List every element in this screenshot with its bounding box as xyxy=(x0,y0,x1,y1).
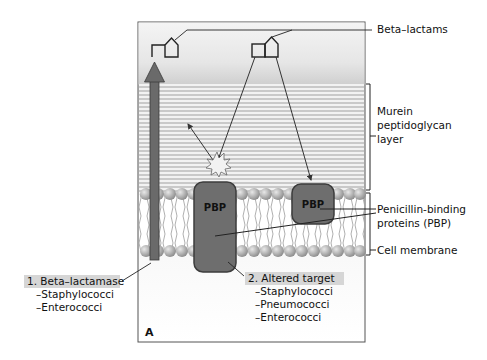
label-beta-lactams: Beta–lactams xyxy=(377,23,448,35)
panel-letter: A xyxy=(145,326,154,339)
label-murein-2: peptidoglycan xyxy=(377,119,452,131)
label-murein-1: Murein xyxy=(377,105,413,117)
pbp-label: PBP xyxy=(204,202,226,213)
mechanism-1-organism: –Staphylococci xyxy=(36,288,114,300)
mechanism-2-organism: –Staphylococci xyxy=(255,285,333,297)
pbp-label: PBP xyxy=(302,199,324,210)
peptidoglycan-layer xyxy=(139,84,364,192)
mechanism-1-title: 1. Beta–lactamase xyxy=(27,275,124,287)
mechanism-1-organism: –Enterococci xyxy=(36,301,102,313)
label-murein-3: layer xyxy=(377,133,404,145)
pbp-normal: PBP xyxy=(292,184,334,224)
beta-lactam-resistance-diagram: PBP PBP Beta–lactams Murein peptidoglyca… xyxy=(0,0,487,360)
label-cell-membrane: Cell membrane xyxy=(377,244,457,256)
label-pbp-2: proteins (PBP) xyxy=(377,217,451,229)
mechanism-2-organism: –Pneumococci xyxy=(255,298,329,310)
pbp-altered-target: PBP xyxy=(194,182,236,272)
label-pbp-1: Penicillin-binding xyxy=(377,203,466,215)
mechanism-2-organism: –Enterococci xyxy=(255,311,321,323)
mechanism-beta-lactamase: 1. Beta–lactamase –Staphylococci –Entero… xyxy=(24,263,151,313)
mechanism-2-title: 2. Altered target xyxy=(248,272,335,284)
